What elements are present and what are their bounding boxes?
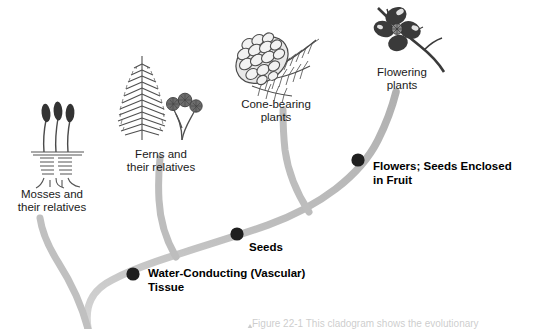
moss-illustration [18, 96, 96, 192]
node-seeds[interactable] [230, 227, 243, 240]
trait-label-seeds: Seeds [249, 241, 339, 255]
figure-caption: Figure 22-1 This cladogram shows the evo… [252, 318, 542, 329]
branch-conifers [283, 110, 309, 212]
cladogram-figure: Mosses and their relatives Ferns and the… [0, 0, 543, 329]
trait-label-flowers: Flowers; Seeds Enclosed in Fruit [373, 160, 543, 187]
pine-cone-illustration [218, 14, 326, 106]
trait-label-vascular-tissue: Water-Conducting (Vascular) Tissue [148, 267, 378, 294]
taxon-label-mosses: Mosses and their relatives [2, 188, 102, 214]
taxon-label-conifers: Cone-bearing plants [222, 98, 330, 124]
figure-caption-text: Figure 22-1 This cladogram shows the evo… [252, 318, 542, 329]
node-vascular-tissue[interactable] [126, 267, 139, 280]
branch-mosses [40, 218, 88, 329]
flower-illustration [372, 2, 458, 74]
fern-illustration [110, 48, 206, 148]
node-flowers[interactable] [351, 153, 364, 166]
clubmoss-sporangia [174, 110, 194, 140]
taxon-label-ferns: Ferns and their relatives [108, 148, 214, 174]
taxon-label-angiosperms: Flowering plants [356, 66, 448, 92]
